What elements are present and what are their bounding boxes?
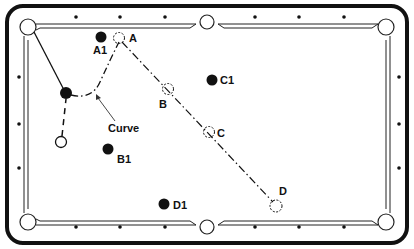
label-c: C	[217, 127, 225, 139]
pocket-bottom-left	[20, 214, 36, 230]
label-a1: A1	[93, 44, 107, 56]
cue-ball	[56, 137, 67, 148]
table-outer-rail	[7, 6, 407, 243]
ball-d1	[159, 199, 170, 210]
label-d1: D1	[173, 199, 187, 211]
label-c1: C1	[220, 74, 234, 86]
pocket-bottom-right	[378, 214, 394, 230]
label-curve: Curve	[108, 122, 139, 134]
ball-a1	[96, 32, 107, 43]
label-d: D	[279, 185, 287, 197]
label-b: B	[159, 98, 167, 110]
pool-table-diagram: A B C D A1 B1 C1 D1 Curve	[0, 0, 414, 249]
label-a: A	[129, 32, 137, 44]
pocket-top-middle	[200, 15, 214, 29]
label-b1: B1	[117, 153, 131, 165]
pocket-bottom-middle	[200, 220, 214, 234]
ball-b1	[103, 144, 114, 155]
ball-c1	[207, 75, 218, 86]
ball-contact	[60, 87, 72, 99]
pocket-top-right	[378, 19, 394, 35]
